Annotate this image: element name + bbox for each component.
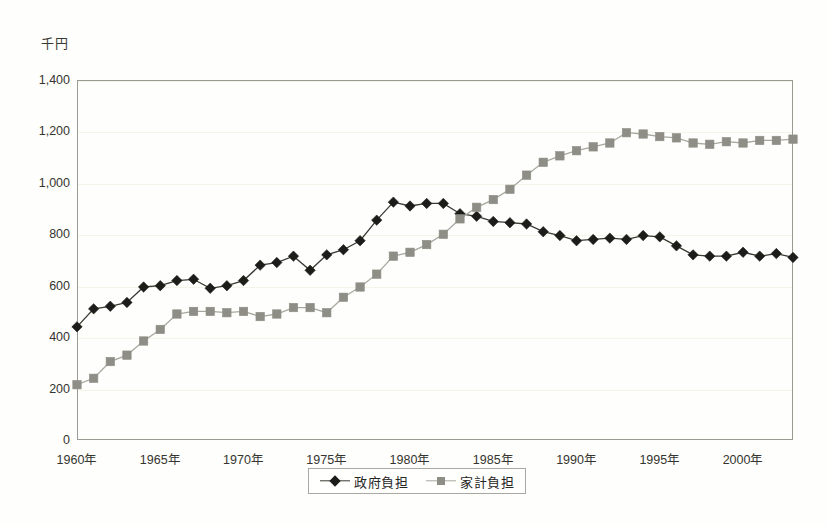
data-point: [639, 130, 647, 138]
y-axis-tick-400: 400: [18, 330, 70, 344]
data-point: [556, 152, 564, 160]
x-axis-tick-2000: 2000年: [723, 449, 764, 468]
data-point: [538, 227, 548, 237]
data-point: [439, 230, 447, 238]
data-point: [406, 248, 414, 256]
data-point: [173, 310, 181, 318]
legend-item-household: 家計負担: [426, 472, 514, 491]
data-point: [722, 138, 730, 146]
y-axis-tick-labels: 02004006008001,0001,2001,400: [12, 80, 70, 440]
data-point: [488, 216, 498, 226]
data-point: [223, 309, 231, 317]
data-point: [338, 245, 348, 255]
x-axis-tick-1995: 1995年: [639, 449, 680, 468]
x-axis-tick-1970: 1970年: [223, 449, 264, 468]
data-point: [273, 310, 281, 318]
data-point: [172, 275, 182, 285]
data-point: [73, 381, 81, 389]
data-point: [306, 303, 314, 311]
data-point: [239, 307, 247, 315]
data-point: [789, 135, 797, 143]
x-axis-tick-1975: 1975年: [306, 449, 347, 468]
data-point: [638, 230, 648, 240]
data-point: [438, 198, 448, 208]
y-axis-tick-1400: 1,400: [18, 73, 70, 87]
data-point: [671, 241, 681, 251]
data-point: [539, 158, 547, 166]
x-axis-tick-labels: 1960年1965年1970年1975年1980年1985年1990年1995年…: [77, 449, 793, 469]
data-point: [605, 233, 615, 243]
data-point: [621, 234, 631, 244]
data-point: [123, 351, 131, 359]
data-point: [521, 219, 531, 229]
data-point: [771, 248, 781, 258]
square-marker-icon: [426, 475, 456, 487]
data-point: [572, 147, 580, 155]
data-point: [772, 136, 780, 144]
data-point: [222, 281, 232, 291]
data-point: [655, 232, 665, 242]
y-axis-tick-1200: 1,200: [18, 124, 70, 138]
data-point: [456, 215, 464, 223]
data-point: [422, 240, 430, 248]
data-point: [405, 201, 415, 211]
data-point: [721, 251, 731, 261]
data-point: [706, 140, 714, 148]
data-point: [206, 307, 214, 315]
y-axis-tick-0: 0: [18, 433, 70, 447]
data-point: [689, 139, 697, 147]
data-point: [89, 374, 97, 382]
data-point: [471, 211, 481, 221]
y-axis-unit-label: 千円: [41, 33, 69, 52]
x-axis-tick-1965: 1965年: [140, 449, 181, 468]
data-point: [188, 274, 198, 284]
data-point: [373, 270, 381, 278]
data-point: [656, 132, 664, 140]
data-series-layer: [77, 80, 793, 440]
y-axis-tick-600: 600: [18, 279, 70, 293]
data-point: [755, 136, 763, 144]
y-axis-tick-800: 800: [18, 227, 70, 241]
data-point: [571, 236, 581, 246]
data-point: [156, 325, 164, 333]
data-point: [588, 234, 598, 244]
data-point: [189, 307, 197, 315]
data-point: [389, 252, 397, 260]
data-point: [705, 251, 715, 261]
legend-label: 政府負担: [354, 472, 408, 491]
series-line: [77, 133, 793, 385]
chart-legend: 政府負担家計負担: [308, 468, 526, 494]
data-point: [672, 134, 680, 142]
data-point: [489, 195, 497, 203]
data-point: [788, 252, 798, 262]
data-point: [555, 230, 565, 240]
data-point: [205, 283, 215, 293]
data-point: [323, 309, 331, 317]
data-point: [421, 198, 431, 208]
y-axis-tick-200: 200: [18, 382, 70, 396]
data-point: [589, 143, 597, 151]
data-point: [106, 357, 114, 365]
data-point: [272, 257, 282, 267]
data-point: [289, 303, 297, 311]
series-household: [73, 129, 797, 389]
x-axis-tick-1960: 1960年: [57, 449, 98, 468]
legend-item-government: 政府負担: [320, 472, 408, 491]
data-point: [356, 283, 364, 291]
series-line: [77, 202, 793, 327]
x-axis-tick-1985: 1985年: [473, 449, 514, 468]
data-point: [339, 293, 347, 301]
diamond-marker-icon: [320, 475, 350, 487]
data-point: [522, 171, 530, 179]
data-point: [738, 247, 748, 257]
data-point: [505, 218, 515, 228]
legend-label: 家計負担: [460, 472, 514, 491]
data-point: [256, 312, 264, 320]
data-point: [472, 203, 480, 211]
data-point: [105, 301, 115, 311]
data-point: [155, 281, 165, 291]
x-axis-tick-1990: 1990年: [556, 449, 597, 468]
y-axis-tick-1000: 1,000: [18, 176, 70, 190]
data-point: [754, 251, 764, 261]
data-point: [606, 139, 614, 147]
